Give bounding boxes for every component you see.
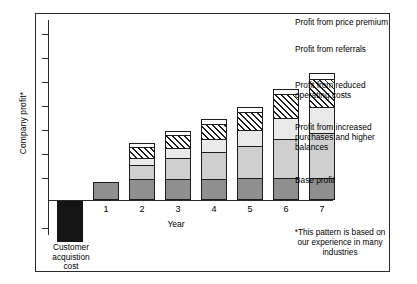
footnote-line: our experience in many xyxy=(292,238,388,248)
legend-label-base-profit: Base profit xyxy=(295,175,415,185)
legend-label-increased-purchases: Profit from increased purchases and high… xyxy=(295,122,415,152)
legend-line: operating costs xyxy=(295,90,415,100)
segment-reduced-operating-costs xyxy=(166,149,190,160)
segment-base-profit xyxy=(94,183,118,199)
legend-label-reduced-operating-costs: Profit from reduced operating costs xyxy=(295,80,415,100)
segment-increased-purchases xyxy=(166,159,190,179)
segment-increased-purchases xyxy=(130,166,154,180)
legend-label-price-premium: Profit from price premium xyxy=(295,17,415,27)
segment-referrals xyxy=(166,136,190,149)
legend-line: balances xyxy=(295,142,415,152)
bar-year-3 xyxy=(165,131,191,200)
x-tick-label-1: 1 xyxy=(93,204,119,214)
segment-referrals xyxy=(130,148,154,159)
segment-base-profit xyxy=(238,179,262,199)
x-tick-label-7: 7 xyxy=(309,204,335,214)
segment-increased-purchases xyxy=(238,147,262,179)
bar-year-2 xyxy=(129,143,155,200)
x-tick-label-3: 3 xyxy=(165,204,191,214)
x-tick-label-5: 5 xyxy=(237,204,263,214)
bar-year-5 xyxy=(237,107,263,200)
segment-increased-purchases xyxy=(202,153,226,179)
segment-base-profit xyxy=(166,180,190,199)
segment-referrals xyxy=(238,113,262,131)
chart-footnote: *This pattern is based on our experience… xyxy=(292,228,388,257)
x-tick-label-6: 6 xyxy=(273,204,299,214)
chart-figure: Company profit* xyxy=(0,0,417,284)
bar-year-4 xyxy=(201,119,227,200)
customer-acquisition-cost-label: Customer acquistion cost xyxy=(40,243,102,272)
segment-referrals xyxy=(202,125,226,140)
bar-year-1 xyxy=(93,182,119,200)
x-tick-label-4: 4 xyxy=(201,204,227,214)
segment-base-profit xyxy=(130,180,154,199)
x-tick-label-2: 2 xyxy=(129,204,155,214)
legend-line: Profit from reduced xyxy=(295,80,415,90)
legend-line: purchases and higher xyxy=(295,132,415,142)
bar-customer-acquisition-cost xyxy=(57,201,83,242)
cac-label-line-3: cost xyxy=(40,262,102,272)
segment-base-profit xyxy=(202,180,226,199)
legend-line: Profit from increased xyxy=(295,122,415,132)
segment-reduced-operating-costs xyxy=(238,131,262,148)
segment-reduced-operating-costs xyxy=(202,140,226,154)
footnote-line: industries xyxy=(292,248,388,258)
legend-line: Base profit xyxy=(295,175,415,185)
footnote-line: *This pattern is based on xyxy=(292,228,388,238)
x-axis-title: Year xyxy=(131,219,221,229)
legend-line: Profit from referrals xyxy=(295,44,415,54)
segment-reduced-operating-costs xyxy=(130,159,154,167)
legend-line: Profit from price premium xyxy=(295,17,415,27)
legend-label-referrals: Profit from referrals xyxy=(295,44,415,54)
